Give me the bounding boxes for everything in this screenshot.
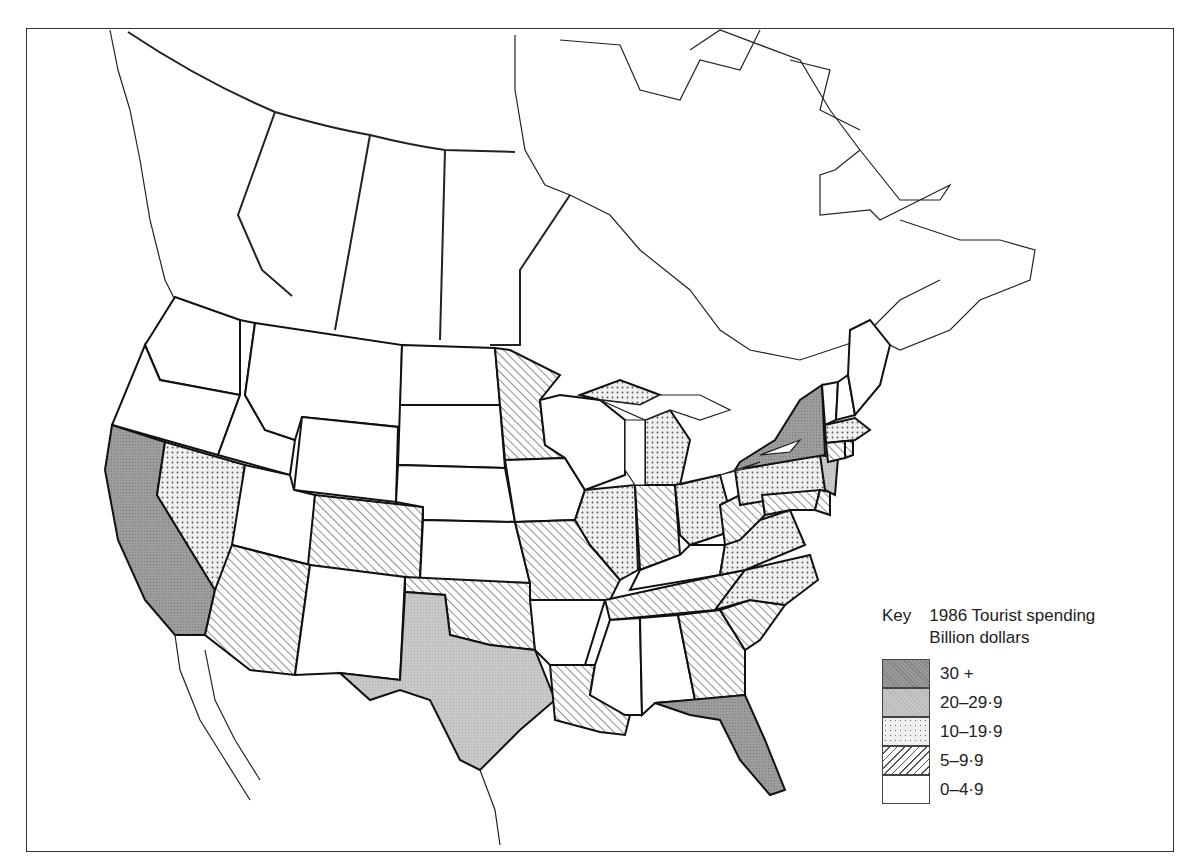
legend-key-label: Key (882, 605, 911, 649)
state-wyoming (294, 417, 398, 502)
legend-label: 10–19·9 (940, 721, 1002, 743)
legend-label: 5–9·9 (940, 750, 983, 772)
usa-states (105, 297, 890, 795)
state-connecticut (826, 441, 845, 462)
legend-row-10-19: 10–19·9 (882, 717, 1095, 746)
state-arkansas (530, 600, 605, 665)
legend-units: Billion dollars (929, 627, 1095, 649)
state-north-dakota (400, 345, 500, 405)
state-kansas (420, 520, 530, 583)
state-florida (655, 695, 785, 795)
state-south-dakota (398, 405, 505, 468)
legend-label: 20–29·9 (940, 692, 1002, 714)
map-legend: Key 1986 Tourist spending Billion dollar… (882, 605, 1095, 804)
legend-swatch-5-9 (882, 746, 930, 775)
legend-swatch-20-29 (882, 688, 930, 717)
legend-row-0-4: 0–4·9 (882, 775, 1095, 804)
state-mississippi (590, 618, 642, 715)
legend-swatch-30-plus (882, 659, 930, 688)
state-rhode-island (845, 441, 853, 458)
legend-row-30-plus: 30 + (882, 659, 1095, 688)
state-michigan (645, 410, 690, 485)
legend-swatch-0-4 (882, 775, 930, 804)
canada-outline (110, 30, 1035, 360)
legend-row-20-29: 20–29·9 (882, 688, 1095, 717)
state-new-mexico (295, 565, 405, 680)
legend-swatch-10-19 (882, 717, 930, 746)
state-new-york (735, 385, 825, 470)
legend-label: 30 + (940, 663, 974, 685)
legend-title: 1986 Tourist spending (929, 605, 1095, 627)
state-maine (848, 320, 890, 415)
legend-label: 0–4·9 (940, 779, 983, 801)
legend-row-5-9: 5–9·9 (882, 746, 1095, 775)
